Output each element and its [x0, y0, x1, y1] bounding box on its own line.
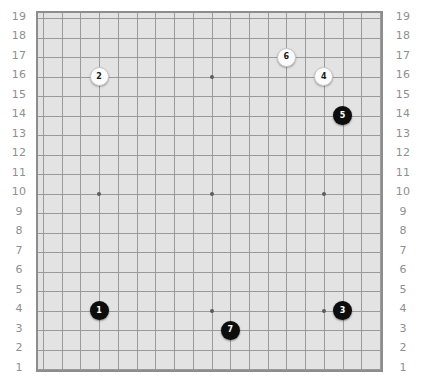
grid-line-vertical — [230, 13, 231, 370]
stone-move-number: 1 — [96, 307, 102, 315]
star-point — [210, 75, 214, 79]
row-coordinates-right: 19181716151413121110987654321 — [388, 15, 418, 368]
grid-line-horizontal — [38, 38, 381, 39]
black-stone[interactable]: 7 — [221, 321, 240, 340]
row-coordinate-label-left: 6 — [4, 264, 34, 275]
grid-line-horizontal — [38, 330, 381, 331]
grid-line-horizontal — [38, 291, 381, 292]
grid-line-vertical — [80, 13, 81, 370]
grid-line-vertical — [193, 13, 194, 370]
row-coordinate-label-left: 8 — [4, 225, 34, 236]
grid-line-vertical — [43, 13, 44, 370]
row-coordinate-label-left: 9 — [4, 206, 34, 217]
grid-line-vertical — [380, 13, 381, 370]
grid-line-horizontal — [38, 369, 381, 370]
row-coordinate-label-left: 18 — [4, 30, 34, 41]
row-coordinate-label-left: 1 — [4, 362, 34, 373]
grid-line-vertical — [118, 13, 119, 370]
go-board-widget: 19181716151413121110987654321 1234567 19… — [0, 0, 422, 389]
row-coordinate-label-right: 10 — [388, 186, 418, 197]
row-coordinate-label-right: 14 — [388, 108, 418, 119]
row-coordinate-label-left: 16 — [4, 69, 34, 80]
row-coordinate-label-right: 2 — [388, 342, 418, 353]
star-point — [97, 192, 101, 196]
stone-move-number: 2 — [96, 73, 102, 81]
row-coordinate-label-right: 18 — [388, 30, 418, 41]
row-coordinate-label-left: 4 — [4, 303, 34, 314]
row-coordinate-label-right: 8 — [388, 225, 418, 236]
go-board[interactable]: 1234567 — [36, 11, 383, 372]
row-coordinate-label-right: 16 — [388, 69, 418, 80]
row-coordinate-label-right: 7 — [388, 245, 418, 256]
grid-line-horizontal — [38, 135, 381, 136]
row-coordinate-label-right: 4 — [388, 303, 418, 314]
star-point — [210, 192, 214, 196]
row-coordinate-label-right: 5 — [388, 284, 418, 295]
row-coordinate-label-right: 12 — [388, 147, 418, 158]
grid-line-horizontal — [38, 272, 381, 273]
star-point — [210, 309, 214, 313]
grid-line-vertical — [361, 13, 362, 370]
row-coordinate-label-right: 1 — [388, 362, 418, 373]
row-coordinate-label-right: 13 — [388, 128, 418, 139]
stone-move-number: 4 — [321, 73, 327, 81]
black-stone[interactable]: 5 — [333, 106, 352, 125]
row-coordinate-label-right: 3 — [388, 323, 418, 334]
row-coordinate-label-left: 17 — [4, 50, 34, 61]
grid-line-horizontal — [38, 116, 381, 117]
grid-line-vertical — [174, 13, 175, 370]
row-coordinate-label-right: 19 — [388, 11, 418, 22]
black-stone[interactable]: 3 — [333, 301, 352, 320]
white-stone[interactable]: 4 — [314, 67, 333, 86]
grid-line-horizontal — [38, 213, 381, 214]
row-coordinate-label-left: 15 — [4, 89, 34, 100]
row-coordinate-label-left: 5 — [4, 284, 34, 295]
row-coordinate-label-right: 15 — [388, 89, 418, 100]
grid-line-horizontal — [38, 174, 381, 175]
board-grid: 1234567 — [38, 13, 381, 370]
row-coordinate-label-left: 14 — [4, 108, 34, 119]
row-coordinates-left: 19181716151413121110987654321 — [4, 15, 34, 368]
grid-line-vertical — [286, 13, 287, 370]
row-coordinate-label-left: 10 — [4, 186, 34, 197]
row-coordinate-label-right: 11 — [388, 167, 418, 178]
grid-line-horizontal — [38, 252, 381, 253]
stone-move-number: 5 — [340, 112, 346, 120]
grid-line-horizontal — [38, 233, 381, 234]
white-stone[interactable]: 6 — [277, 48, 296, 67]
row-coordinate-label-left: 2 — [4, 342, 34, 353]
grid-line-vertical — [137, 13, 138, 370]
stone-move-number: 6 — [284, 53, 290, 61]
row-coordinate-label-right: 6 — [388, 264, 418, 275]
row-coordinate-label-left: 19 — [4, 11, 34, 22]
white-stone[interactable]: 2 — [90, 67, 109, 86]
row-coordinate-label-left: 3 — [4, 323, 34, 334]
grid-line-vertical — [268, 13, 269, 370]
stone-move-number: 7 — [227, 326, 233, 334]
star-point — [322, 309, 326, 313]
grid-line-vertical — [155, 13, 156, 370]
row-coordinate-label-left: 13 — [4, 128, 34, 139]
row-coordinate-label-left: 7 — [4, 245, 34, 256]
grid-line-vertical — [62, 13, 63, 370]
grid-line-horizontal — [38, 155, 381, 156]
star-point — [322, 192, 326, 196]
black-stone[interactable]: 1 — [90, 301, 109, 320]
row-coordinate-label-left: 11 — [4, 167, 34, 178]
grid-line-horizontal — [38, 18, 381, 19]
grid-line-horizontal — [38, 96, 381, 97]
stone-move-number: 3 — [340, 307, 346, 315]
row-coordinate-label-left: 12 — [4, 147, 34, 158]
grid-line-vertical — [305, 13, 306, 370]
row-coordinate-label-right: 17 — [388, 50, 418, 61]
row-coordinate-label-right: 9 — [388, 206, 418, 217]
grid-line-horizontal — [38, 57, 381, 58]
grid-line-horizontal — [38, 350, 381, 351]
grid-line-vertical — [249, 13, 250, 370]
